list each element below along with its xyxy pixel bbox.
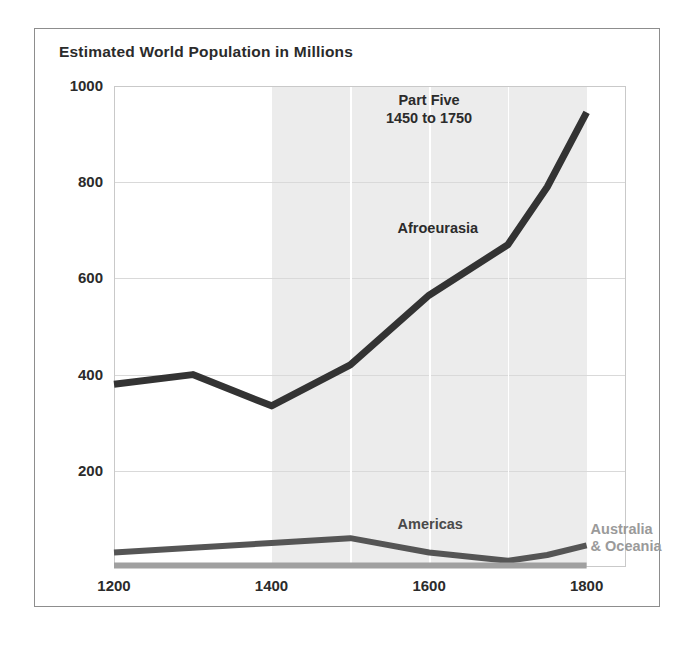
chart-figure: Estimated World Population in Millions P… — [34, 28, 660, 607]
series-label-afroeurasia: Afroeurasia — [398, 220, 479, 236]
x-tick-1600: 1600 — [412, 577, 445, 594]
page-title: Estimated World Population in Millions — [59, 43, 353, 61]
plot-area: Part Five 1450 to 1750 Afroeurasia Ameri… — [114, 86, 626, 567]
y-tick-800: 800 — [43, 173, 103, 190]
series-label-americas: Americas — [398, 516, 463, 532]
y-tick-1000: 1000 — [43, 77, 103, 94]
series-label-australia-line1: Australia — [591, 521, 662, 538]
part-five-line2: 1450 to 1750 — [349, 109, 509, 127]
y-tick-600: 600 — [43, 269, 103, 286]
y-tick-400: 400 — [43, 366, 103, 383]
y-tick-200: 200 — [43, 462, 103, 479]
series-lines — [114, 86, 626, 567]
series-line-afroeurasia — [114, 112, 587, 405]
series-line-americas — [114, 538, 587, 561]
x-tick-1400: 1400 — [255, 577, 288, 594]
series-label-australia-line2: & Oceania — [591, 538, 662, 555]
x-tick-1800: 1800 — [570, 577, 603, 594]
series-label-australia: Australia & Oceania — [591, 521, 662, 556]
part-five-annotation: Part Five 1450 to 1750 — [349, 91, 509, 127]
part-five-line1: Part Five — [349, 91, 509, 109]
x-tick-1200: 1200 — [97, 577, 130, 594]
